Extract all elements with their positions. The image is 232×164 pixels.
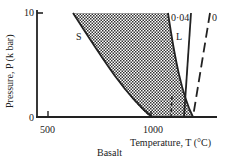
curve-label-l: L xyxy=(176,32,182,42)
x-tick-label-1000: 1000 xyxy=(143,125,163,135)
melting-region xyxy=(73,13,193,117)
caption-basalt: Basalt xyxy=(97,148,122,158)
y-tick-label-10: 10 xyxy=(24,8,34,18)
y-axis-label: Pressure, P (k bar) xyxy=(4,34,15,108)
curve-label-s: S xyxy=(76,32,82,42)
curve-0-dashed xyxy=(193,13,210,117)
curve-label-0: 0 xyxy=(212,13,217,23)
x-tick-label-500: 500 xyxy=(40,125,55,135)
x-axis-label: Temperature, T (°C) xyxy=(130,138,211,148)
y-tick-label-0: 0 xyxy=(29,113,34,123)
curve-label-0-04: 0·04 xyxy=(171,13,189,23)
